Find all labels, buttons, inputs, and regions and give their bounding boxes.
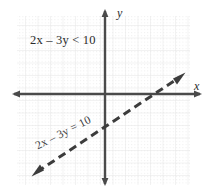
inequality-label: 2x – 3y < 10 — [30, 33, 96, 48]
x-axis-label: x — [194, 79, 199, 94]
y-axis-label: y — [117, 6, 122, 21]
coordinate-plane-svg — [0, 0, 214, 192]
graph-figure: 2x – 3y < 10 2x – 3y = 10 y x — [0, 0, 214, 192]
